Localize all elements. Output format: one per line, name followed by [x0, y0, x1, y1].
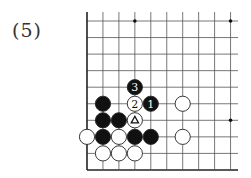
move-number: 1 [147, 98, 154, 111]
white-stone: 2 [127, 96, 142, 111]
go-board: 321 [0, 0, 251, 178]
white-stone [79, 129, 94, 144]
black-stone [143, 129, 158, 144]
black-stone [127, 129, 142, 144]
black-stone: 3 [127, 80, 142, 95]
star-point [229, 19, 233, 23]
black-stone [95, 96, 110, 111]
white-stone [175, 96, 190, 111]
white-stone [127, 146, 142, 161]
black-stone [95, 129, 110, 144]
white-stone [127, 113, 142, 128]
white-stone [111, 129, 126, 144]
white-stone [175, 129, 190, 144]
white-stone [111, 146, 126, 161]
move-number: 2 [131, 98, 138, 111]
star-point [133, 19, 137, 23]
board-grid [87, 12, 238, 170]
black-stone [111, 113, 126, 128]
move-number: 3 [131, 81, 138, 94]
white-stone [95, 146, 110, 161]
black-stone [95, 113, 110, 128]
star-point [229, 119, 233, 123]
black-stone: 1 [143, 96, 158, 111]
